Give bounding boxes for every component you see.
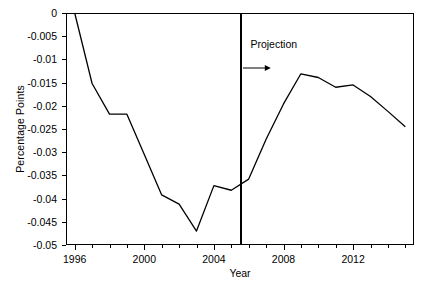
chart-container: Percentage Points Year 0-0.005-0.01-0.01…: [0, 0, 430, 284]
projection-arrow-icon: [243, 61, 275, 75]
projection-label: Projection: [250, 38, 297, 50]
projection-divider-line: [240, 13, 242, 245]
data-series-line: [0, 0, 430, 284]
